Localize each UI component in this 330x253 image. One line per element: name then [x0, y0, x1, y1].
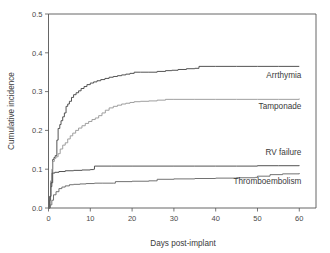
cumulative-incidence-chart: 0102030405060 0.00.10.20.30.40.5 Arrthym…	[0, 0, 330, 253]
series-label-rv-failure: RV failure	[266, 148, 302, 157]
y-tick-label: 0.5	[32, 10, 42, 19]
series-annotations: ArrthymiaTamponadeRV failureThromboembol…	[234, 71, 302, 186]
series-label-tamponade: Tamponade	[259, 102, 302, 111]
x-tick-label: 30	[170, 214, 178, 223]
x-axis-title: Days post-implant	[150, 239, 216, 248]
x-tick-label: 50	[253, 214, 261, 223]
x-tick-label: 60	[295, 214, 303, 223]
x-axis-ticks	[49, 208, 300, 212]
x-tick-label: 10	[86, 214, 94, 223]
y-tick-label: 0.4	[32, 49, 42, 58]
y-axis-tick-labels: 0.00.10.20.30.40.5	[32, 10, 42, 213]
y-tick-label: 0.3	[32, 87, 42, 96]
series-curves	[49, 66, 300, 208]
y-tick-label: 0.2	[32, 126, 42, 135]
chart-canvas: 0102030405060 0.00.10.20.30.40.5 Arrthym…	[0, 0, 330, 253]
x-tick-label: 40	[212, 214, 220, 223]
y-axis-ticks	[45, 14, 49, 208]
curve-arrthymia	[49, 66, 300, 208]
x-axis-tick-labels: 0102030405060	[46, 214, 303, 223]
series-label-thromboembolism: Thromboembolism	[234, 177, 302, 186]
x-tick-label: 0	[46, 214, 50, 223]
x-tick-label: 20	[128, 214, 136, 223]
series-label-arrthymia: Arrthymia	[266, 71, 301, 80]
curve-tamponade	[49, 99, 300, 208]
curve-rv-failure	[49, 165, 300, 208]
y-tick-label: 0.1	[32, 165, 42, 174]
y-tick-label: 0.0	[32, 204, 42, 213]
y-axis-title: Cumulative incidence	[7, 72, 16, 150]
